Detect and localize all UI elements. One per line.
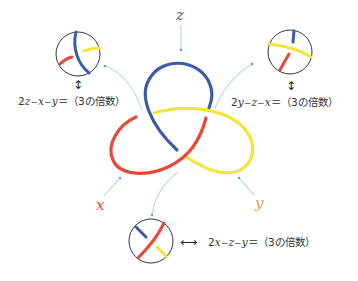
- equation-bottom: 2x−z−y＝（3の倍数）: [208, 237, 315, 248]
- label-x: x: [96, 198, 104, 213]
- arrow-updown-icon: ↕: [286, 80, 296, 92]
- crossing-circle-bottom: [129, 219, 173, 263]
- label-y: y: [255, 196, 263, 211]
- knot-arcs: [111, 63, 253, 173]
- leader-dots: [104, 49, 254, 217]
- trefoil-coloring-diagram: z x y ↕ 2z−x−y＝（3の倍数） ↕ 2y−z−x＝（3の倍数） ⟷ …: [0, 0, 358, 281]
- arc-x: [111, 117, 206, 173]
- leader-bottom: [152, 172, 178, 215]
- equation-top-left: 2z−x−y＝（3の倍数）: [18, 96, 125, 107]
- arrow-updown-icon: ↕: [73, 79, 83, 91]
- crossing-circle-top-left: [56, 32, 100, 76]
- arc-z: [145, 63, 212, 150]
- arrow-leftright-icon: ⟷: [180, 236, 197, 248]
- crossing-circle-top-right: [268, 30, 312, 74]
- equation-top-right: 2y−z−x＝（3の倍数）: [231, 97, 338, 108]
- label-z: z: [176, 8, 184, 23]
- leader-x: [104, 178, 120, 196]
- leader-y: [239, 178, 254, 195]
